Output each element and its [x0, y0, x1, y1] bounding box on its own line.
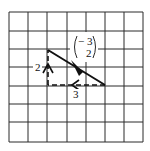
vertical-component-label: 2 — [35, 61, 41, 73]
horizontal-component-label: 3 — [73, 88, 79, 100]
column-vector-bottom: 2 — [86, 47, 92, 59]
column-vector-top: − 3 — [78, 35, 93, 47]
vector-diagram: 2 3 − 3 2 — [0, 0, 150, 151]
